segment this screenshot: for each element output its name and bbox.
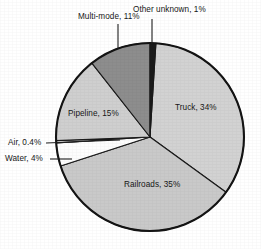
pie-chart-canvas <box>0 0 261 249</box>
slice-label-truck: Truck, 34% <box>175 104 217 112</box>
slice-label-other-unknown: Other unknown, 1% <box>133 6 206 14</box>
slice-label-railroads: Railroads, 35% <box>124 181 180 189</box>
slice-label-multi-mode: Multi-mode, 11% <box>78 13 140 21</box>
slice-label-pipeline: Pipeline, 15% <box>68 110 119 118</box>
pie-chart: Other unknown, 1% Multi-mode, 11% Truck,… <box>0 0 261 249</box>
slice-label-air: Air, 0.4% <box>8 139 41 147</box>
slice-label-water: Water, 4% <box>5 155 43 163</box>
